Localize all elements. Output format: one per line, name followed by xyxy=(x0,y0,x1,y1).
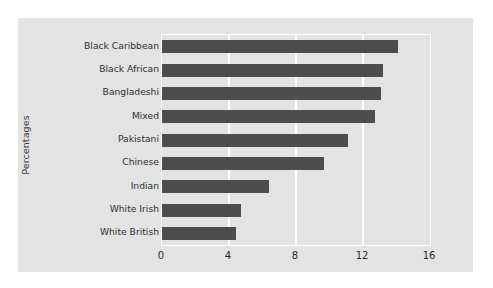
y-axis-tick-label: Pakistani xyxy=(74,134,159,144)
y-axis-tick-label: Indian xyxy=(74,181,159,191)
chart-figure: Percentages Black CaribbeanBlack African… xyxy=(18,18,473,272)
y-axis-tick-label: White British xyxy=(74,227,159,237)
bar xyxy=(162,110,375,123)
plot-area xyxy=(161,34,431,246)
bar xyxy=(162,40,398,53)
bar xyxy=(162,134,348,147)
x-axis-tick-labels: 0481216 xyxy=(161,249,429,263)
x-axis-tick-label: 8 xyxy=(280,249,310,263)
x-axis-tick-label: 12 xyxy=(347,249,377,263)
x-axis-tick-label: 0 xyxy=(146,249,176,263)
y-axis-tick-label: Mixed xyxy=(74,111,159,121)
y-axis-tick-labels: Black CaribbeanBlack AfricanBangladeshiM… xyxy=(74,34,159,244)
x-axis-tick-label: 16 xyxy=(414,249,444,263)
y-axis-tick-label: White Irish xyxy=(74,204,159,214)
bar xyxy=(162,87,381,100)
bar xyxy=(162,180,269,193)
y-axis-tick-label: Chinese xyxy=(74,157,159,167)
bar xyxy=(162,227,236,240)
plot-inner xyxy=(162,35,430,245)
y-axis-tick-label: Bangladeshi xyxy=(74,87,159,97)
bar xyxy=(162,157,324,170)
y-axis-tick-label: Black Caribbean xyxy=(74,41,159,51)
y-axis-tick-label: Black African xyxy=(74,64,159,74)
bar xyxy=(162,204,241,217)
y-axis-title: Percentages xyxy=(18,18,34,272)
x-axis-tick-label: 4 xyxy=(213,249,243,263)
bar xyxy=(162,64,383,77)
